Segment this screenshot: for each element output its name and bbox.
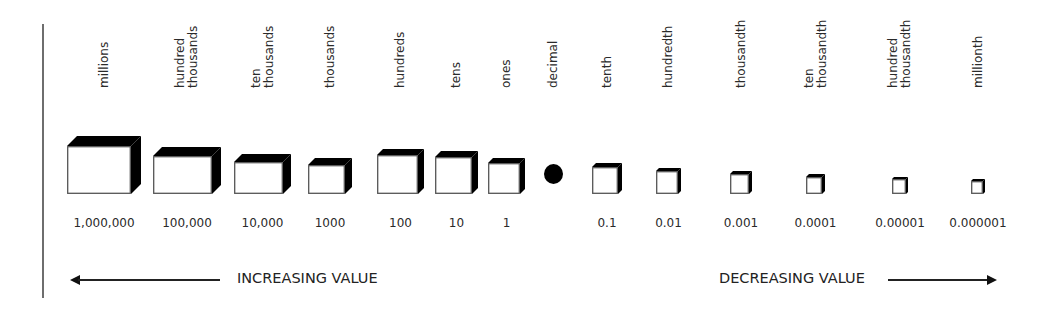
cube-shape-icon [67,136,141,194]
place-label-tens: tens [450,62,463,88]
place-value-ten-thousandth: 0.0001 [795,216,837,230]
cube-ones [488,158,525,194]
cube-shape-icon [592,163,622,194]
place-value-millions: 1,000,000 [73,216,134,230]
increasing-value-label: INCREASING VALUE [237,270,378,286]
right-arrow-head-icon [987,275,997,285]
place-label-millionth: millionth [972,36,985,88]
place-label-ones: ones [500,59,513,88]
cube-shape-icon [377,149,424,194]
place-label-thousands: thousands [324,26,337,88]
place-label-decimal: decimal [547,41,560,88]
cube-hundredth [656,168,681,194]
place-value-ten-thousands: 10,000 [242,216,284,230]
right-arrow-line [888,279,988,281]
place-value-ones: 1 [503,216,511,230]
place-value-tenth: 0.1 [597,216,616,230]
decreasing-value-label: DECREASING VALUE [719,270,865,286]
cube-shape-icon [730,171,752,194]
cube-shape-icon [892,177,908,194]
cube-hundreds [377,149,424,194]
cube-shape-icon [806,174,825,194]
cube-tens [435,151,478,194]
place-label-hundredth: hundredth [662,26,675,88]
place-value-millionth: 0.000001 [949,216,1006,230]
place-value-thousandth: 0.001 [724,216,758,230]
place-label-hundreds: hundreds [394,32,407,88]
place-label-tenth: tenth [601,56,614,88]
left-rule [42,24,44,298]
cube-shape-icon [234,154,291,194]
cube-millions [67,136,141,194]
cube-thousandth [730,171,752,194]
place-label-hundred-thousandth: hundred thousandth [887,20,913,88]
cube-thousands [308,158,352,194]
cube-shape-icon [488,158,525,194]
place-label-thousandth: thousandth [735,20,748,88]
cube-millionth [971,179,985,194]
cube-ten-thousandth [806,174,825,194]
place-value-tens: 10 [449,216,464,230]
cube-shape-icon [153,147,221,194]
place-value-diagram: millions1,000,000hundred thousands100,00… [0,0,1054,313]
cube-shape-icon [971,179,985,194]
cube-hundred-thousands [153,147,221,194]
cube-hundred-thousandth [892,177,908,194]
cube-ten-thousands [234,154,291,194]
place-label-ten-thousands: ten thousands [250,26,276,88]
place-value-hundreds: 100 [389,216,412,230]
decimal-point-icon [544,164,563,184]
left-arrow-line [78,279,220,281]
cube-tenth [592,163,622,194]
place-value-hundred-thousandth: 0.00001 [875,216,925,230]
place-label-millions: millions [98,42,111,88]
place-label-hundred-thousands: hundred thousands [174,26,200,88]
place-value-hundred-thousands: 100,000 [162,216,212,230]
cube-shape-icon [308,158,352,194]
place-value-hundredth: 0.01 [655,216,682,230]
cube-shape-icon [435,151,478,194]
place-value-thousands: 1000 [315,216,346,230]
cube-shape-icon [656,168,681,194]
place-label-ten-thousandth: ten thousandth [803,20,829,88]
